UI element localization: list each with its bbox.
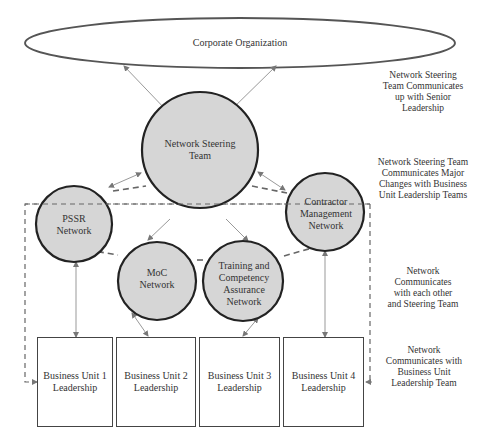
contractor-network-label: Contractor Management Network (290, 194, 362, 234)
pssr-network-label: PSSR Network (46, 210, 102, 240)
steering-team-label: Network Steering Team (155, 132, 245, 168)
moc-network-label: MoC Network (128, 264, 186, 294)
corporate-organization-label: Corporate Organization (120, 36, 360, 50)
business-unit-4-box: Business Unit 4 Leadership (283, 337, 364, 427)
annotation-network-communicates: Network Communicates with each other and… (386, 266, 460, 310)
annotation-senior-leadership: Network Steering Team Communicates up wi… (378, 70, 468, 114)
annotation-business-unit-communication: Network Communicates with Business Unit … (384, 345, 464, 389)
business-unit-1-box: Business Unit 1 Leadership (37, 337, 113, 427)
dashed-enclosure-right (367, 204, 370, 382)
business-unit-3-box: Business Unit 3 Leadership (199, 337, 280, 427)
annotation-major-changes: Network Steering Team Communicates Major… (376, 157, 470, 201)
business-unit-2-box: Business Unit 2 Leadership (116, 337, 196, 427)
training-network-label: Training and Competency Assurance Networ… (209, 260, 279, 308)
